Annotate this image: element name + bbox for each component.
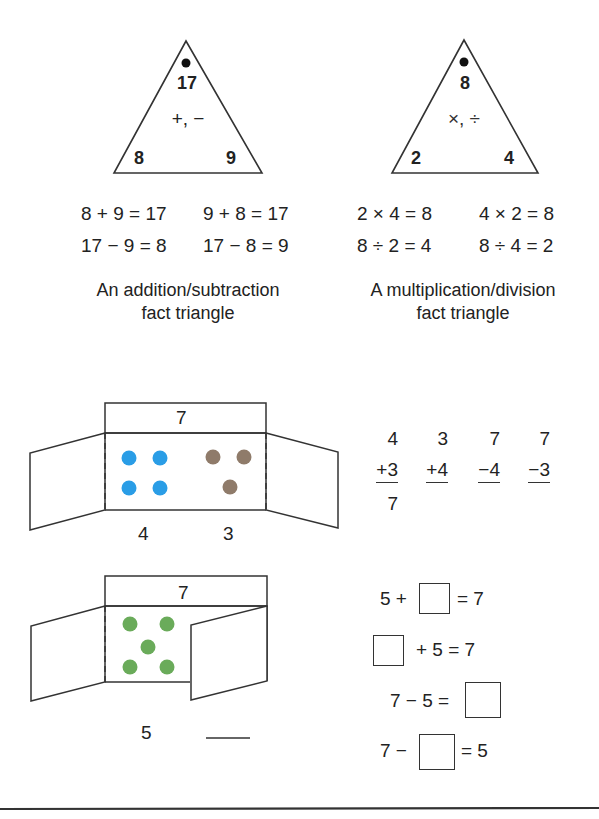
diagram-line-art [0, 0, 599, 819]
equation-after: = 5 [461, 740, 488, 762]
equation-after: + 5 = 7 [416, 639, 475, 661]
fact-equation: 8 ÷ 2 = 4 [357, 235, 431, 257]
triangle-caption: A multiplication/division fact triangle [340, 279, 586, 325]
triangle-caption: An addition/subtraction fact triangle [70, 279, 306, 325]
triangle-right-number: 9 [226, 148, 236, 169]
equation-before: 7 − [380, 740, 407, 762]
bottom-rule [0, 808, 599, 809]
box-total-label: 7 [176, 407, 187, 429]
triangle-left-number: 8 [134, 148, 144, 169]
triangle-operators: ×, ÷ [436, 108, 492, 130]
folding-box-2 [31, 576, 267, 701]
fact-equation: 2 × 4 = 8 [357, 203, 432, 225]
answer-box[interactable] [465, 682, 501, 718]
fact-equation: 8 + 9 = 17 [81, 203, 167, 225]
equation-before: 7 − 5 = [390, 690, 449, 712]
equation-row: 5 + [380, 588, 407, 610]
box-left-count: 4 [138, 523, 149, 545]
triangle-top-dot-icon [460, 58, 469, 67]
triangle-operators: +, − [160, 108, 216, 130]
answer-box[interactable] [419, 583, 450, 614]
answer-box[interactable] [373, 635, 404, 666]
triangle-right-number: 4 [504, 148, 514, 169]
box-visible-count: 5 [141, 722, 152, 744]
fact-equation: 9 + 8 = 17 [203, 203, 289, 225]
fact-equation: 4 × 2 = 8 [479, 203, 554, 225]
box-total-label: 7 [178, 582, 189, 604]
box-right-count: 3 [223, 523, 234, 545]
fact-equation: 17 − 9 = 8 [81, 235, 167, 257]
answer-box[interactable] [419, 734, 455, 770]
triangle-top-number: 17 [170, 73, 204, 94]
fact-equation: 17 − 8 = 9 [203, 235, 289, 257]
equation-after: = 7 [457, 588, 484, 610]
triangle-left-number: 2 [411, 148, 421, 169]
triangle-top-number: 8 [448, 73, 482, 94]
triangle-top-dot-icon [182, 59, 191, 68]
fact-equation: 8 ÷ 4 = 2 [479, 235, 553, 257]
